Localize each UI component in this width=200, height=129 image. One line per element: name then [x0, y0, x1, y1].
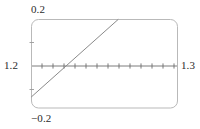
y-max-label: 0.2: [31, 4, 45, 15]
y-min-label: −0.2: [31, 113, 51, 124]
x-min-label: 1.2: [4, 60, 18, 71]
plot-canvas: [0, 0, 200, 129]
x-max-label: 1.3: [181, 60, 195, 71]
graph-viewport: 0.2 1.2 1.3 −0.2: [0, 0, 200, 129]
